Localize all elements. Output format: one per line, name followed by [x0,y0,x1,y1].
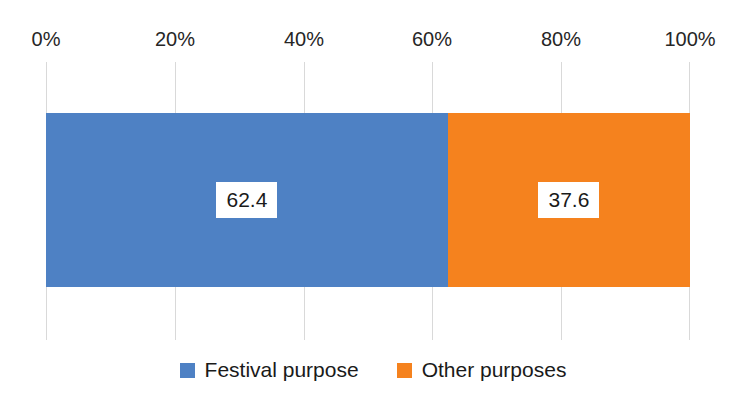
bar-segment-label-other-purposes: 37.6 [538,182,599,218]
bar-segment-festival-purpose[interactable]: 62.4 [46,113,448,287]
legend-item-festival-purpose[interactable]: Festival purpose [180,358,359,382]
stacked-bar-chart: 0% 20% 40% 60% 80% 100% 62.4 37.6 Festiv… [0,0,746,402]
legend-label-festival-purpose: Festival purpose [205,358,359,382]
bar-segment-label-festival-purpose: 62.4 [216,182,277,218]
legend-label-other-purposes: Other purposes [422,358,567,382]
x-tick-label-0: 0% [32,26,61,52]
x-tick-label-100: 100% [664,26,715,52]
x-tick-label-40: 40% [284,26,324,52]
x-axis-tick-labels: 0% 20% 40% 60% 80% 100% [0,26,746,56]
x-tick-label-20: 20% [155,26,195,52]
legend-swatch-blue-icon [180,363,195,378]
legend-item-other-purposes[interactable]: Other purposes [397,358,567,382]
x-tick-label-60: 60% [412,26,452,52]
stacked-bar-row: 62.4 37.6 [46,113,690,287]
x-tick-label-80: 80% [541,26,581,52]
bar-segment-other-purposes[interactable]: 37.6 [448,113,690,287]
chart-legend: Festival purpose Other purposes [0,358,746,382]
legend-swatch-orange-icon [397,363,412,378]
